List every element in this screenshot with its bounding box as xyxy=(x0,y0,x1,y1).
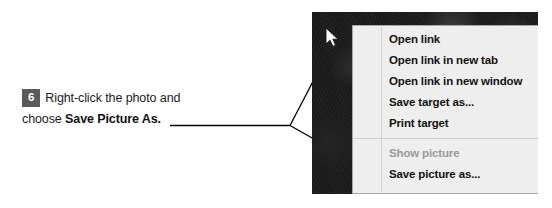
step-number-badge: 6 xyxy=(22,89,40,107)
menu-item-open-link[interactable]: Open link xyxy=(353,29,538,50)
instruction-callout: 6Right-click the photo and choose Save P… xyxy=(22,88,252,130)
callout-line-2-prefix: choose xyxy=(22,112,65,126)
instructional-figure: 6Right-click the photo and choose Save P… xyxy=(0,0,552,208)
menu-item-label: Show picture xyxy=(389,147,459,159)
menu-item-label: Print target xyxy=(389,117,449,129)
menu-item-open-link-new-tab[interactable]: Open link in new tab xyxy=(353,50,538,71)
menu-item-save-picture-as[interactable]: Save picture as... xyxy=(353,164,538,185)
mouse-pointer-icon xyxy=(325,27,341,49)
menu-item-label: Save picture as... xyxy=(389,168,480,180)
menu-item-label: Open link in new window xyxy=(389,75,522,87)
context-menu[interactable]: Open link Open link in new tab Open link… xyxy=(352,25,538,194)
menu-item-show-picture: Show picture xyxy=(353,143,538,164)
menu-item-save-target-as[interactable]: Save target as... xyxy=(353,92,538,113)
menu-item-label: Open link xyxy=(389,33,440,45)
menu-item-print-target[interactable]: Print target xyxy=(353,113,538,134)
menu-item-open-link-new-window[interactable]: Open link in new window xyxy=(353,71,538,92)
browser-screenshot-panel: Open link Open link in new tab Open link… xyxy=(312,12,538,194)
menu-item-label: Open link in new tab xyxy=(389,54,498,66)
callout-line-2: choose Save Picture As. xyxy=(22,109,252,130)
callout-line-1: 6Right-click the photo and xyxy=(22,88,252,109)
callout-line-2-bold: Save Picture As. xyxy=(65,112,161,126)
menu-item-label: Save target as... xyxy=(389,96,474,108)
callout-line-1-text: Right-click the photo and xyxy=(45,91,180,105)
